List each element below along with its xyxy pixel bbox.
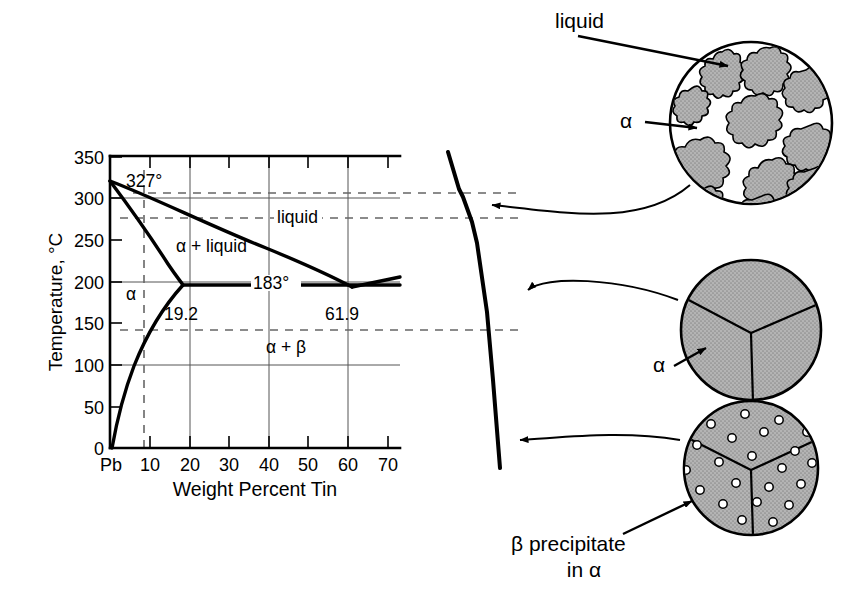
plot-annotations-overlay: 183° liquid [253,207,318,293]
svg-text:20: 20 [180,455,200,475]
annotation-region-alpha-plus-beta: α + β [266,337,306,357]
connector-arrows [492,185,690,440]
grains-circle-outline [681,260,821,400]
y-tick-labels: 350 300 250 200 150 100 50 0 [74,148,104,459]
precipitate-circle-outline [684,401,818,535]
x-tick-labels: Pb 10 20 30 40 50 60 70 [100,455,398,475]
annotation-melting-point-pb: 327° [126,171,162,191]
phase-diagram-plot: Temperature, °C Weight Percent Tin 350 3… [45,148,520,500]
svg-text:300: 300 [74,189,104,209]
microstructure-precipitate: β precipitate in α [511,401,818,581]
svg-text:10: 10 [140,455,160,475]
svg-text:50: 50 [298,455,318,475]
microstructure-grains: α [653,260,821,402]
arrow-beta-precipitate [623,501,692,534]
cooling-curve-group [448,152,500,468]
label-beta-precipitate-line1: β precipitate [511,532,626,555]
svg-text:70: 70 [378,455,398,475]
annotation-183-overlay: 183° [253,273,289,293]
plot-annotations: 327° 183° 19.2 61.9 liquid α + liquid α … [126,171,359,357]
svg-text:Pb: Pb [100,455,122,475]
label-alpha-grains: α [653,353,665,376]
svg-text:50: 50 [84,398,104,418]
svg-text:250: 250 [74,231,104,251]
microstructure-dendritic: liquid α [555,9,838,241]
label-beta-precipitate-line2: in α [567,558,601,581]
figure-canvas: Temperature, °C Weight Percent Tin 350 3… [0,0,863,591]
annotation-region-alpha-plus-liquid: α + liquid [176,236,247,256]
x-axis-ticks-top [150,156,388,168]
svg-text:100: 100 [74,356,104,376]
svg-text:350: 350 [74,148,104,168]
connector-dendritic-to-curve [492,185,690,214]
y-axis-label: Temperature, °C [45,233,66,372]
gridlines-vertical [190,156,348,448]
svg-text:40: 40 [259,455,279,475]
svg-text:60: 60 [338,455,358,475]
annotation-region-alpha: α [126,284,136,304]
annotation-liquid-overlay: liquid [277,207,318,227]
x-axis-label: Weight Percent Tin [173,478,337,500]
annotation-eutectic-composition: 61.9 [325,304,359,324]
svg-text:30: 30 [219,455,239,475]
connector-precipitate-to-curve [520,435,680,440]
connector-grains-to-curve [528,281,678,300]
phase-diagram-figure: Temperature, °C Weight Percent Tin 350 3… [0,0,863,591]
label-liquid-callout: liquid [555,9,604,32]
annotation-max-alpha-solubility: 19.2 [164,304,198,324]
label-alpha-dendrite: α [620,109,632,132]
svg-text:200: 200 [74,273,104,293]
cooling-curve-path [448,152,500,468]
svg-text:150: 150 [74,314,104,334]
arrow-liquid-callout [578,36,728,66]
x-axis-ticks [110,436,388,448]
